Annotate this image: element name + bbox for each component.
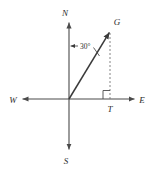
label-east: E — [138, 95, 145, 105]
label-south: S — [64, 156, 69, 166]
label-north: N — [61, 8, 69, 18]
label-angle-30: 30° — [80, 42, 91, 51]
label-point-g: G — [114, 17, 121, 27]
label-point-t: T — [107, 104, 113, 114]
right-angle-marker-at-t — [103, 91, 110, 100]
geometry-figure: N S E W G T 30° — [0, 0, 154, 171]
label-west: W — [9, 95, 18, 105]
diagram-canvas: N S E W G T 30° — [0, 0, 154, 171]
